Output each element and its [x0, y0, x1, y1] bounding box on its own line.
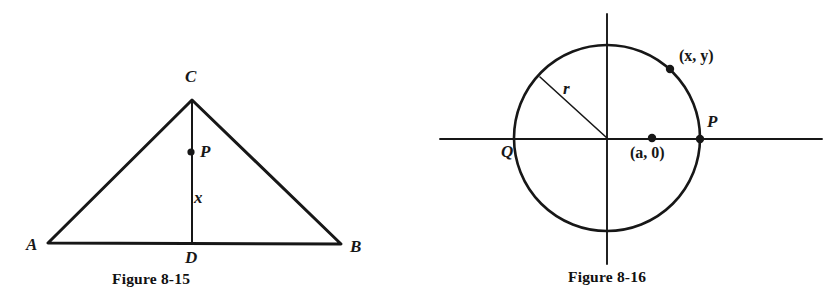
segment-length-label-x: x: [194, 189, 203, 206]
point-a-zero-dot: [648, 134, 656, 142]
point-xy-dot: [666, 65, 674, 73]
vertex-label-a: A: [26, 236, 37, 253]
radius-line: [540, 77, 607, 138]
vertex-label-b: B: [350, 238, 361, 255]
point-label-xy: (x, y): [679, 48, 714, 64]
figures-canvas: [0, 0, 840, 305]
figures-svg: [0, 0, 840, 305]
vertex-label-d: D: [185, 249, 197, 266]
point-label-p-triangle: P: [200, 143, 210, 160]
point-p-dot: [187, 148, 194, 155]
point-label-p-circle: P: [707, 113, 717, 130]
point-p-circle-dot: [696, 135, 704, 143]
triangle-abc: [48, 100, 341, 244]
figure-8-16-geometry: [440, 14, 822, 264]
vertex-label-c: C: [185, 68, 196, 85]
point-label-a-zero: (a, 0): [630, 145, 665, 161]
point-label-q: Q: [501, 143, 513, 160]
radius-label-r: r: [563, 80, 570, 97]
figure-caption-8-15: Figure 8-15: [112, 270, 190, 288]
figure-8-15-geometry: [48, 100, 341, 244]
figure-caption-8-16: Figure 8-16: [568, 268, 646, 286]
